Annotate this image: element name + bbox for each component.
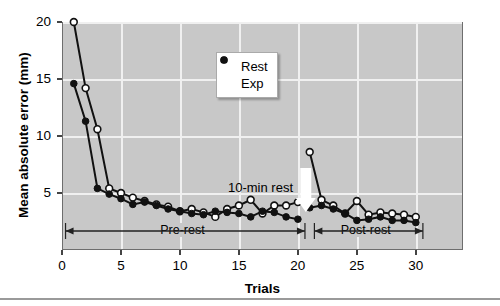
phase-range-arrow — [314, 223, 423, 239]
data-point-exp — [212, 208, 219, 215]
data-point-exp — [165, 206, 172, 213]
data-point-exp — [130, 201, 137, 208]
data-point-exp — [236, 210, 243, 217]
data-series-layer — [0, 0, 500, 306]
data-point-exp — [354, 217, 361, 224]
data-point-exp — [365, 216, 372, 223]
data-point-rest — [306, 149, 313, 156]
chart-figure: Mean absolute error (mm) Trials Rest Exp… — [0, 0, 500, 306]
data-point-exp — [141, 199, 148, 206]
data-point-exp — [82, 118, 89, 125]
data-point-exp — [153, 202, 160, 209]
data-point-exp — [295, 216, 302, 223]
data-point-exp — [342, 210, 349, 217]
data-point-rest — [94, 126, 101, 133]
data-point-exp — [259, 208, 266, 215]
data-point-rest — [389, 210, 396, 217]
data-point-rest — [247, 196, 254, 203]
data-point-exp — [224, 209, 231, 216]
data-point-exp — [271, 209, 278, 216]
data-point-exp — [283, 214, 290, 221]
data-point-exp — [177, 208, 184, 215]
data-point-rest — [354, 198, 361, 205]
data-point-exp — [377, 214, 384, 221]
data-point-exp — [94, 185, 101, 192]
data-point-rest — [283, 202, 290, 209]
data-point-exp — [318, 202, 325, 209]
data-point-exp — [188, 210, 195, 217]
data-point-rest — [82, 85, 89, 92]
data-point-exp — [118, 195, 125, 202]
data-point-exp — [413, 219, 420, 226]
data-point-exp — [71, 80, 78, 87]
data-point-exp — [389, 217, 396, 224]
data-point-exp — [247, 214, 254, 221]
data-point-rest — [271, 202, 278, 209]
data-point-rest — [70, 19, 77, 26]
data-point-exp — [401, 217, 408, 224]
series-line-exp — [74, 84, 298, 220]
data-point-exp — [330, 206, 337, 213]
data-point-rest — [236, 202, 243, 209]
data-point-rest — [129, 194, 136, 201]
phase-range-arrow — [66, 223, 305, 239]
data-point-exp — [106, 191, 113, 198]
data-point-exp — [200, 211, 207, 218]
